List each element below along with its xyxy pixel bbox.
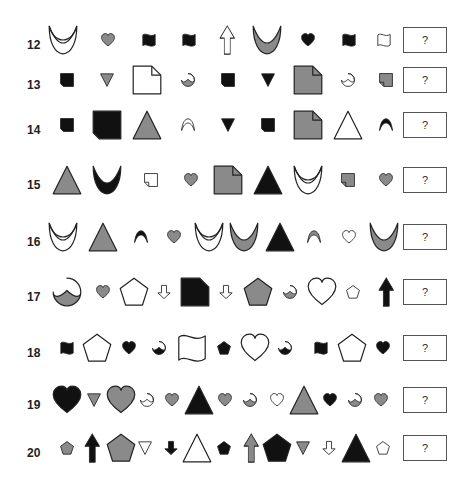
heart-icon (270, 393, 284, 407)
puzzle-row-19: 19? (0, 380, 471, 420)
answer-box[interactable]: ? (403, 112, 447, 138)
pentagon-icon (243, 277, 273, 307)
thin-crescent-icon (379, 118, 393, 132)
heart-icon (101, 33, 115, 47)
cut-square-icon (221, 73, 235, 87)
folded-page-icon (213, 165, 243, 195)
triangle-down-icon (261, 73, 275, 87)
flag-icon (342, 33, 356, 47)
flag-icon (142, 33, 156, 47)
heart-icon (342, 230, 356, 244)
flag-icon (177, 333, 207, 363)
flag-icon (377, 33, 391, 47)
double-crescent-icon (48, 222, 78, 252)
row-number: 18 (27, 346, 40, 360)
arrow-up-icon (378, 277, 395, 307)
folded-page-icon (379, 73, 393, 87)
cut-square-icon (92, 110, 122, 140)
cut-square-icon (60, 73, 74, 87)
pentagon-icon (106, 433, 136, 463)
triangle-icon (289, 385, 319, 415)
thin-crescent-icon (181, 118, 195, 132)
pentagon-icon (376, 441, 390, 455)
triangle-icon (253, 165, 283, 195)
flag-icon (60, 341, 74, 355)
heart-icon (376, 341, 390, 355)
answer-box[interactable]: ? (403, 435, 447, 461)
pentagon-icon (346, 285, 360, 299)
pacman-icon (348, 393, 362, 407)
shape-sequence-puzzle: 12?13?14?15?16?17?18?19?20? (0, 0, 471, 490)
puzzle-row-13: 13? (0, 60, 471, 100)
arrow-down-icon (322, 441, 336, 455)
heart-icon (307, 277, 337, 307)
cut-square-icon (60, 118, 74, 132)
answer-box[interactable]: ? (403, 67, 447, 93)
double-crescent-icon (48, 25, 78, 55)
triangle-icon (52, 165, 82, 195)
puzzle-row-14: 14? (0, 105, 471, 145)
arrow-down-icon (219, 285, 233, 299)
heart-icon (96, 285, 110, 299)
puzzle-row-17: 17? (0, 272, 471, 312)
answer-box[interactable]: ? (403, 335, 447, 361)
pacman-icon (181, 73, 195, 87)
puzzle-row-20: 20? (0, 428, 471, 468)
triangle-down-icon (296, 441, 310, 455)
heart-icon (106, 385, 136, 415)
flag-icon (182, 33, 196, 47)
puzzle-row-18: 18? (0, 328, 471, 368)
triangle-icon (88, 222, 118, 252)
heart-icon (323, 393, 337, 407)
crescent-icon (252, 25, 282, 55)
pacman-icon (52, 277, 82, 307)
pentagon-icon (262, 433, 292, 463)
crescent-icon (229, 222, 259, 252)
pacman-icon (341, 73, 355, 87)
double-crescent-icon (194, 222, 224, 252)
arrow-up-icon (219, 25, 236, 55)
row-number: 20 (27, 446, 40, 460)
folded-page-icon (293, 110, 323, 140)
pacman-icon (152, 341, 166, 355)
triangle-down-icon (138, 441, 152, 455)
row-number: 12 (27, 38, 40, 52)
heart-icon (167, 230, 181, 244)
answer-box[interactable]: ? (403, 224, 447, 250)
pentagon-icon (217, 341, 231, 355)
heart-icon (374, 393, 388, 407)
heart-icon (301, 33, 315, 47)
triangle-icon (341, 433, 371, 463)
puzzle-row-15: 15? (0, 160, 471, 200)
row-number: 15 (27, 178, 40, 192)
triangle-icon (184, 385, 214, 415)
row-number: 16 (27, 235, 40, 249)
crescent-icon (92, 165, 122, 195)
pentagon-icon (82, 333, 112, 363)
heart-icon (184, 173, 198, 187)
thin-crescent-icon (307, 230, 321, 244)
triangle-icon (182, 433, 212, 463)
heart-icon (122, 341, 136, 355)
row-number: 13 (27, 78, 40, 92)
row-number: 14 (27, 123, 40, 137)
pacman-icon (140, 393, 154, 407)
folded-page-icon (293, 65, 323, 95)
pentagon-icon (337, 333, 367, 363)
flag-icon (314, 341, 328, 355)
answer-box[interactable]: ? (403, 167, 447, 193)
answer-box[interactable]: ? (403, 387, 447, 413)
pentagon-icon (217, 441, 231, 455)
triangle-icon (132, 110, 162, 140)
heart-icon (218, 393, 232, 407)
arrow-up-icon (84, 433, 101, 463)
thin-crescent-icon (134, 230, 148, 244)
pentagon-icon (119, 277, 149, 307)
double-crescent-icon (293, 165, 323, 195)
heart-icon (379, 173, 393, 187)
triangle-icon (265, 222, 295, 252)
cut-square-icon (261, 118, 275, 132)
answer-box[interactable]: ? (403, 279, 447, 305)
answer-box[interactable]: ? (403, 27, 447, 53)
pentagon-icon (60, 441, 74, 455)
